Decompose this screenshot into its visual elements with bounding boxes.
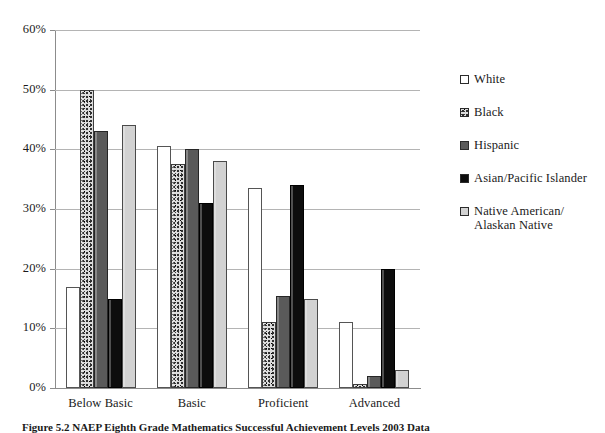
bar: [157, 146, 171, 388]
legend-label: Black: [474, 105, 504, 119]
bar: [185, 149, 199, 388]
bar: [353, 384, 367, 388]
legend-label: Asian/Pacific Islander: [474, 171, 587, 185]
legend-swatch-icon: [460, 207, 469, 216]
gridline: [55, 388, 420, 389]
x-tick-label: Advanced: [309, 396, 439, 411]
bar: [122, 125, 136, 388]
bar: [262, 322, 276, 388]
bar: [171, 164, 185, 388]
legend-item: Native American/ Alaskan Native: [460, 204, 602, 232]
bar: [80, 90, 94, 388]
bar-group: [157, 30, 227, 388]
y-tick-label: 0%: [0, 381, 46, 394]
y-tickmark: [50, 149, 55, 150]
y-tickmark: [50, 209, 55, 210]
y-tickmark: [50, 269, 55, 270]
bar: [108, 299, 122, 389]
bar: [339, 322, 353, 388]
y-tickmark: [50, 90, 55, 91]
bar: [213, 161, 227, 388]
y-tick-label: 60%: [0, 23, 46, 36]
bar: [94, 131, 108, 388]
y-tick-label: 40%: [0, 142, 46, 155]
y-tick-label: 50%: [0, 83, 46, 96]
legend-swatch-icon: [460, 108, 469, 117]
bar-group: [339, 30, 409, 388]
bar: [290, 185, 304, 388]
bar: [276, 296, 290, 388]
legend-swatch-icon: [460, 75, 469, 84]
chart-legend: WhiteBlackHispanicAsian/Pacific Islander…: [460, 72, 602, 251]
bar: [248, 188, 262, 388]
bar: [395, 370, 409, 388]
bar: [199, 203, 213, 388]
figure-caption: Figure 5.2 NAEP Eighth Grade Mathematics…: [22, 421, 582, 433]
y-tick-label: 10%: [0, 321, 46, 334]
legend-label: Hispanic: [474, 138, 519, 152]
legend-swatch-icon: [460, 141, 469, 150]
legend-item: Hispanic: [460, 138, 602, 152]
y-tickmark: [50, 30, 55, 31]
y-tick-label: 20%: [0, 262, 46, 275]
legend-item: White: [460, 72, 602, 86]
bar: [367, 376, 381, 388]
bar: [304, 299, 318, 389]
bar: [66, 287, 80, 388]
legend-swatch-icon: [460, 174, 469, 183]
legend-item: Black: [460, 105, 602, 119]
bar: [381, 269, 395, 388]
legend-label: Native American/ Alaskan Native: [474, 204, 602, 232]
y-tickmark: [50, 328, 55, 329]
bar-group: [248, 30, 318, 388]
y-tickmark: [50, 388, 55, 389]
plot-area: 0%10%20%30%40%50%60%: [55, 30, 420, 388]
figure-container: 0%10%20%30%40%50%60% Below BasicBasicPro…: [0, 0, 605, 433]
legend-item: Asian/Pacific Islander: [460, 171, 602, 185]
bar-group: [66, 30, 136, 388]
legend-label: White: [474, 72, 505, 86]
y-tick-label: 30%: [0, 202, 46, 215]
